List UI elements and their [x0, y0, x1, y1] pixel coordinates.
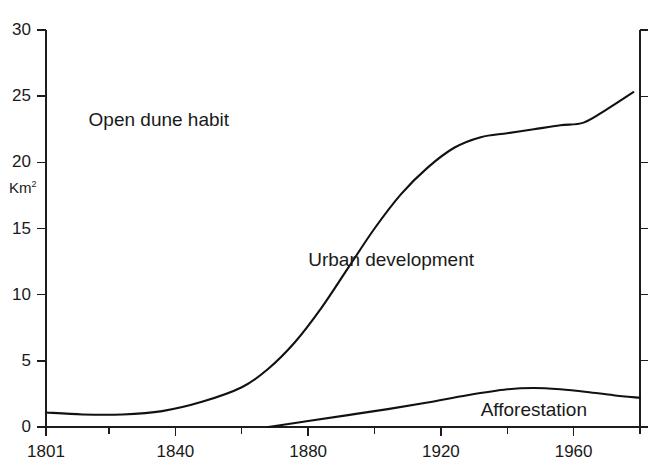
annotation-afforestation: Afforestation	[481, 400, 587, 419]
chart-figure: 051015202530 18011840188019201960 Km2 Op…	[0, 0, 660, 471]
y-tick-label-25: 25	[0, 87, 31, 104]
y-axis-title-base: Km	[9, 179, 32, 196]
x-tick-label-1960: 1960	[542, 443, 606, 460]
annotation-urban-development: Urban development	[308, 250, 474, 269]
y-tick-label-30: 30	[0, 21, 31, 38]
y-axis-title-superscript: 2	[32, 179, 37, 189]
y-tick-label-5: 5	[0, 352, 31, 369]
x-tick-label-1880: 1880	[276, 443, 340, 460]
annotation-open-dune-habit: Open dune habit	[89, 110, 230, 129]
y-axis-title: Km2	[9, 180, 37, 195]
x-tick-label-1840: 1840	[143, 443, 207, 460]
y-axis-ticks	[37, 30, 648, 427]
y-tick-label-20: 20	[0, 153, 31, 170]
y-tick-label-0: 0	[0, 418, 31, 435]
axes	[46, 30, 640, 427]
y-tick-label-15: 15	[0, 220, 31, 237]
y-tick-label-10: 10	[0, 286, 31, 303]
x-tick-label-1801: 1801	[14, 443, 78, 460]
x-tick-label-1920: 1920	[409, 443, 473, 460]
x-axis-ticks	[46, 427, 640, 436]
